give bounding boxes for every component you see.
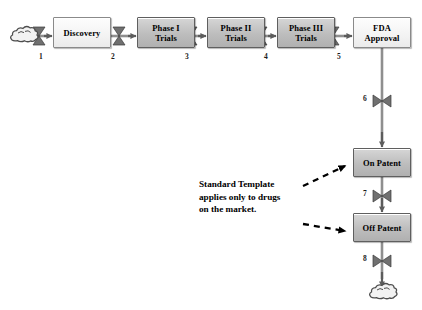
flow-label-2: 2 bbox=[111, 52, 115, 61]
stock-phase-ii-trials-label: Phase II Trials bbox=[208, 23, 264, 43]
stock-phase-i-trials-label: Phase I Trials bbox=[138, 23, 194, 43]
stock-phase-iii-trials[interactable]: Phase III Trials bbox=[277, 17, 335, 48]
stock-off-patent-label: Off Patent bbox=[354, 223, 410, 233]
stock-fda-approval[interactable]: FDA Approval bbox=[353, 17, 411, 48]
stock-phase-ii-trials[interactable]: Phase II Trials bbox=[207, 17, 265, 48]
flow-label-7: 7 bbox=[363, 189, 367, 198]
source-cloud-icon bbox=[11, 27, 38, 42]
flow-label-5: 5 bbox=[337, 52, 341, 61]
stock-off-patent[interactable]: Off Patent bbox=[353, 213, 411, 242]
stock-phase-iii-trials-label: Phase III Trials bbox=[278, 23, 334, 43]
stock-on-patent[interactable]: On Patent bbox=[353, 148, 411, 177]
stock-phase-i-trials[interactable]: Phase I Trials bbox=[137, 17, 195, 48]
stock-discovery[interactable]: Discovery bbox=[53, 17, 111, 48]
stock-discovery-label: Discovery bbox=[54, 28, 110, 38]
standard-template-note: Standard Template applies only to drugs … bbox=[199, 178, 280, 216]
flow-label-8: 8 bbox=[363, 254, 367, 263]
stock-fda-approval-label: FDA Approval bbox=[354, 23, 410, 43]
flow-label-1: 1 bbox=[39, 52, 43, 61]
flow-label-6: 6 bbox=[363, 94, 367, 103]
sink-cloud-icon bbox=[370, 284, 397, 299]
flow-label-3: 3 bbox=[185, 52, 189, 61]
diagram-canvas: Discovery Phase I Trials Phase II Trials… bbox=[0, 0, 422, 310]
stock-on-patent-label: On Patent bbox=[354, 158, 410, 168]
annotation-arrow-off-patent bbox=[303, 224, 345, 231]
annotation-arrow-on-patent bbox=[303, 166, 345, 186]
flow-label-4: 4 bbox=[264, 52, 268, 61]
